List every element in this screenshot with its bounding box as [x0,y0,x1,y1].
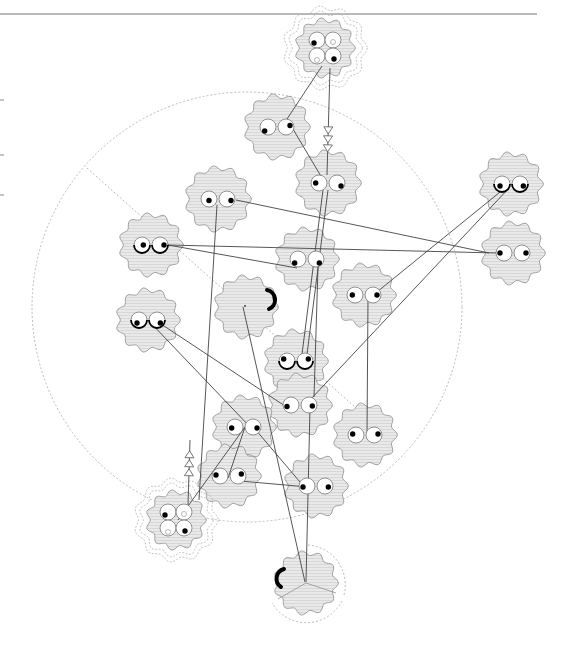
eye-white [290,251,306,267]
pupil [292,260,297,265]
edge-line [148,320,252,429]
pupil-hollow [331,40,336,45]
eye-white [160,504,176,520]
pupil-hollow [182,512,187,517]
pupil [300,484,305,489]
edge-line [255,429,300,482]
pupil [523,250,528,255]
eye-white [325,48,341,64]
cloud-node-n-top-quad[interactable] [284,6,367,90]
pupil [310,403,315,408]
cloud-shape [147,490,207,550]
pupil [338,183,343,188]
pupil [375,431,380,436]
pupil [254,425,259,430]
arrowhead-icon [184,469,193,476]
pupil [350,431,355,436]
pupil [239,471,244,476]
pupil [162,512,167,517]
pupil [497,250,502,255]
pupil [213,472,218,477]
eye-white [176,520,192,536]
edge [255,429,300,482]
cloud-shape [296,18,356,78]
edge-line [236,200,489,253]
pupil [317,260,322,265]
eye-white [309,32,325,48]
center-dot [244,305,246,307]
eye-white [260,119,276,135]
pupil-hollow [315,58,320,63]
pupil [229,425,234,430]
pupil [326,484,331,489]
pupil [206,198,211,203]
arrowhead-icon [324,136,333,143]
pupil [311,40,316,45]
pupil [497,183,502,188]
cloud-node-n-bottom-arc[interactable] [272,545,345,623]
pupil [313,180,318,185]
arrowhead-icon [324,127,333,134]
pupil [141,242,146,247]
edge [148,320,252,429]
diagram-canvas [0,0,569,653]
pupil [262,128,267,133]
eye-white [308,251,324,267]
pupil [374,292,379,297]
pupil-hollow [166,530,171,535]
pupil [306,356,311,361]
arrowhead-icon [185,451,194,458]
diagram-svg [0,0,569,653]
pupil [158,320,163,325]
pupil [182,528,187,533]
eye-white [230,468,246,484]
eye-white [329,175,345,191]
edge [236,200,489,253]
pupil [161,242,166,247]
pupil [287,123,292,128]
pupil [521,183,526,188]
pupil [350,292,355,297]
pupil [281,356,286,361]
pupil [134,320,139,325]
pupil [228,198,233,203]
arrowhead-icon [185,460,194,467]
pupil [331,56,336,61]
pupil [284,404,289,409]
